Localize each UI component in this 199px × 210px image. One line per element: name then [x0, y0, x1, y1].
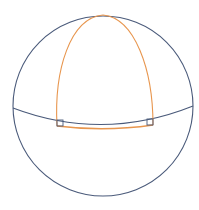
triangle-left-side — [57, 15, 103, 126]
sphere-outline — [13, 16, 193, 196]
triangle-base — [57, 125, 153, 129]
sphere-diagram — [0, 0, 199, 210]
equator-arc — [13, 106, 193, 125]
triangle-right-side — [103, 15, 153, 125]
